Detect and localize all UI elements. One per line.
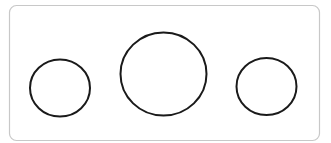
diagram-frame xyxy=(10,6,320,141)
diagram-canvas xyxy=(0,0,331,143)
